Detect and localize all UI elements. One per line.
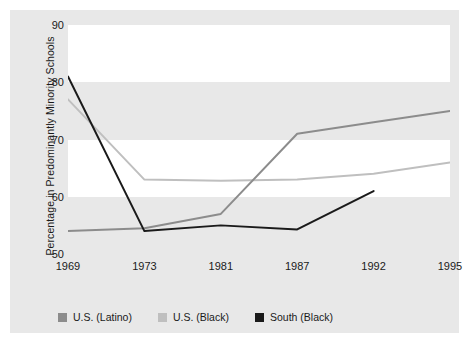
x-tick-label: 1995 (427, 260, 469, 272)
y-tick-label: 50 (30, 248, 64, 260)
y-tick-label: 60 (30, 191, 64, 203)
chart-panel: Percentage in Predominantly Minority Sch… (10, 10, 459, 333)
x-tick-label: 1987 (274, 260, 320, 272)
legend-swatch-icon (158, 313, 167, 322)
legend-swatch-icon (255, 313, 264, 322)
legend-item[interactable]: U.S. (Latino) (58, 311, 132, 323)
x-axis-tick-labels: 196919731981198719921995 (68, 260, 450, 278)
legend-label: U.S. (Black) (173, 311, 229, 323)
legend-label: South (Black) (270, 311, 333, 323)
x-tick-label: 1992 (351, 260, 397, 272)
legend-item[interactable]: U.S. (Black) (158, 311, 229, 323)
legend-swatch-icon (58, 313, 67, 322)
y-axis-tick-labels: 5060708090 (24, 25, 64, 254)
chart-legend: U.S. (Latino)U.S. (Black)South (Black) (58, 305, 333, 329)
legend-label: U.S. (Latino) (73, 311, 132, 323)
x-tick-label: 1981 (198, 260, 244, 272)
x-tick-label: 1969 (45, 260, 91, 272)
y-tick-label: 90 (30, 19, 64, 31)
series-line (68, 77, 374, 232)
series-line (68, 99, 450, 180)
chart-screenshot: Percentage in Predominantly Minority Sch… (0, 0, 469, 343)
x-tick-label: 1973 (121, 260, 167, 272)
plot-area (68, 25, 450, 254)
legend-item[interactable]: South (Black) (255, 311, 333, 323)
series-svg (68, 25, 450, 254)
y-tick-label: 80 (30, 76, 64, 88)
y-tick-label: 70 (30, 134, 64, 146)
